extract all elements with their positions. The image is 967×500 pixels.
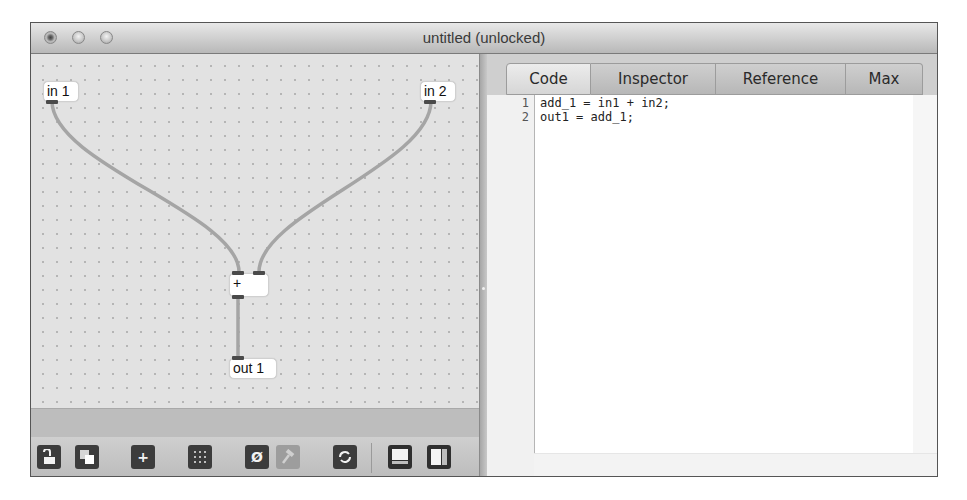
refresh-button[interactable] — [333, 445, 357, 469]
sidebar-pane: Code Inspector Reference Max 1 2 add_1 =… — [487, 54, 937, 476]
inlet-object-in1[interactable]: in 1 — [43, 81, 79, 102]
side-panel-icon — [430, 448, 448, 466]
patcher-footer — [31, 408, 479, 439]
plus-icon: + — [137, 449, 149, 465]
outlet-port-in2[interactable] — [424, 100, 436, 104]
patch-cables — [31, 54, 479, 408]
code-line[interactable]: out1 = add_1; — [540, 110, 634, 124]
tab-label: Reference — [743, 70, 819, 88]
title-bar[interactable]: untitled (unlocked) — [31, 23, 937, 54]
new-object-button[interactable]: + — [131, 445, 155, 469]
debug-button[interactable] — [276, 445, 300, 469]
inlet-port-add-left[interactable] — [232, 271, 244, 275]
line-number: 1 — [522, 96, 529, 110]
patcher-toolbar: + Ø — [31, 437, 479, 477]
cable-in2-to-add — [259, 101, 431, 272]
tab-max[interactable]: Max — [846, 63, 923, 95]
object-label: in 2 — [424, 83, 447, 99]
patcher-window: untitled (unlocked) in 1 in 2 + out 1 — [30, 22, 938, 477]
outlet-port-in1[interactable] — [46, 100, 58, 104]
line-number: 2 — [522, 110, 529, 124]
bottom-panel-button[interactable] — [388, 445, 412, 469]
patcher-canvas[interactable]: in 1 in 2 + out 1 — [31, 54, 479, 408]
horizontal-scrollbar[interactable] — [534, 453, 937, 476]
vertical-scrollbar[interactable] — [913, 95, 937, 454]
inlet-port-add-right[interactable] — [253, 271, 265, 275]
hammer-icon — [280, 449, 296, 465]
pane-divider[interactable] — [479, 54, 487, 477]
add-object[interactable]: + — [229, 273, 269, 297]
sidebar-tabs: Code Inspector Reference Max — [506, 63, 923, 95]
tab-code[interactable]: Code — [506, 63, 591, 95]
tab-label: Code — [529, 70, 567, 88]
toolbar-separator — [371, 443, 372, 473]
grid-button[interactable] — [188, 445, 212, 469]
unlock-icon — [41, 449, 57, 465]
object-label: out 1 — [233, 360, 264, 376]
presentation-button[interactable] — [75, 445, 99, 469]
code-editor[interactable]: 1 2 add_1 = in1 + in2; out1 = add_1; — [487, 95, 937, 476]
inlet-object-in2[interactable]: in 2 — [420, 81, 456, 102]
code-line[interactable]: add_1 = in1 + in2; — [540, 96, 670, 110]
null-icon: Ø — [251, 449, 263, 465]
lock-button[interactable] — [37, 445, 61, 469]
tab-label: Inspector — [618, 70, 688, 88]
bottom-panel-icon — [391, 448, 409, 466]
clear-button[interactable]: Ø — [245, 445, 269, 469]
side-panel-button[interactable] — [427, 445, 451, 469]
tab-inspector[interactable]: Inspector — [591, 63, 716, 95]
window-title: untitled (unlocked) — [31, 29, 937, 46]
tab-label: Max — [868, 70, 899, 88]
line-number-gutter: 1 2 — [487, 95, 535, 476]
object-label: + — [233, 275, 241, 291]
divider-grip — [482, 287, 485, 290]
inlet-port-out1[interactable] — [232, 356, 244, 360]
grid-icon — [192, 449, 208, 465]
refresh-icon — [337, 449, 353, 465]
outlet-object-out1[interactable]: out 1 — [229, 358, 277, 379]
outlet-port-add[interactable] — [232, 295, 244, 299]
cable-in1-to-add — [52, 101, 239, 272]
presentation-icon — [79, 449, 95, 465]
tab-reference[interactable]: Reference — [716, 63, 846, 95]
object-label: in 1 — [47, 83, 70, 99]
